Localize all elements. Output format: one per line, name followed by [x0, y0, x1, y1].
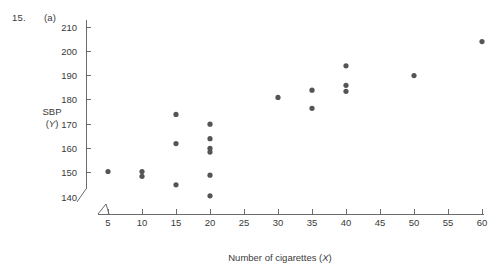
y-axis-break-mark: [77, 189, 86, 202]
data-point: [173, 112, 178, 117]
x-axis-title: Number of cigarettes (X): [160, 252, 400, 263]
x-axis: 51015202530354045505560: [98, 204, 487, 228]
y-axis-tick-label: 190: [61, 70, 77, 81]
x-axis-tick-label: 5: [105, 217, 110, 228]
y-axis-tick-label: 210: [61, 22, 77, 33]
data-point: [207, 122, 212, 127]
x-axis-tick-label: 45: [375, 217, 386, 228]
plot-area: 140150160170180190200210 510152025303540…: [86, 18, 484, 214]
data-point: [343, 63, 348, 68]
x-axis-tick-label: 30: [273, 217, 284, 228]
x-axis-tick-label: 15: [171, 217, 182, 228]
y-axis-title-paren-close: ): [55, 118, 58, 129]
data-point: [207, 149, 212, 154]
x-axis-tick-label: 40: [341, 217, 352, 228]
y-axis-tick-label: 160: [61, 143, 77, 154]
data-point: [139, 174, 144, 179]
x-axis-tick-label: 35: [307, 217, 318, 228]
data-point: [173, 182, 178, 187]
x-axis-tick-label: 55: [443, 217, 454, 228]
data-points-group: [105, 39, 484, 198]
data-point: [343, 89, 348, 94]
plot-svg: 140150160170180190200210 510152025303540…: [86, 18, 484, 214]
y-axis-tick-label: 140: [61, 192, 77, 203]
scatter-plot-figure: 15. (a) SBP (Y) Number of cigarettes (X)…: [0, 0, 490, 275]
y-axis-tick-label: 180: [61, 94, 77, 105]
x-axis-tick-label: 50: [409, 217, 420, 228]
x-axis-break-mark: [98, 204, 109, 214]
y-axis-tick-label: 150: [61, 167, 77, 178]
data-point: [479, 39, 484, 44]
data-point: [309, 106, 314, 111]
part-letter-label: (a): [44, 12, 56, 23]
x-axis-title-paren-close: ): [329, 252, 332, 263]
x-axis-tick-label: 25: [239, 217, 250, 228]
data-point: [343, 83, 348, 88]
x-axis-tick-label: 60: [477, 217, 488, 228]
data-point: [207, 173, 212, 178]
data-point: [207, 136, 212, 141]
data-point: [275, 95, 280, 100]
x-axis-tick-label: 20: [205, 217, 216, 228]
data-point: [309, 88, 314, 93]
y-axis-title-line1: SBP: [30, 106, 74, 118]
data-point: [173, 141, 178, 146]
data-point: [105, 169, 110, 174]
problem-number-label: 15.: [12, 12, 26, 23]
data-point: [139, 169, 144, 174]
y-axis-tick-label: 200: [61, 46, 77, 57]
data-point: [411, 73, 416, 78]
y-axis-tick-label: 170: [61, 119, 77, 130]
x-axis-tick-label: 10: [137, 217, 148, 228]
x-axis-title-text: Number of cigarettes (: [228, 252, 322, 263]
data-point: [207, 193, 212, 198]
